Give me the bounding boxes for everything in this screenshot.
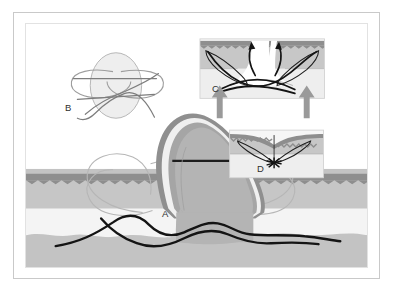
panel-d-group [230, 130, 324, 178]
panel-c-group [200, 39, 327, 118]
panel-label-a: A [162, 209, 169, 219]
panel-label-d: D [257, 164, 264, 174]
panel-b-group [71, 53, 163, 120]
illustration-canvas: A B C D [26, 24, 367, 267]
figure-outer-frame: A B C D [13, 12, 380, 279]
figure-inner-frame: A B C D [25, 23, 368, 268]
panel-b-excision-ellipse [90, 53, 141, 118]
panel-d-subcutaneous [230, 154, 324, 178]
panel-label-c: C [212, 84, 219, 94]
figure-root: A B C D [0, 0, 393, 291]
panel-label-b: B [65, 103, 72, 113]
surgical-illustration-svg [26, 24, 367, 267]
